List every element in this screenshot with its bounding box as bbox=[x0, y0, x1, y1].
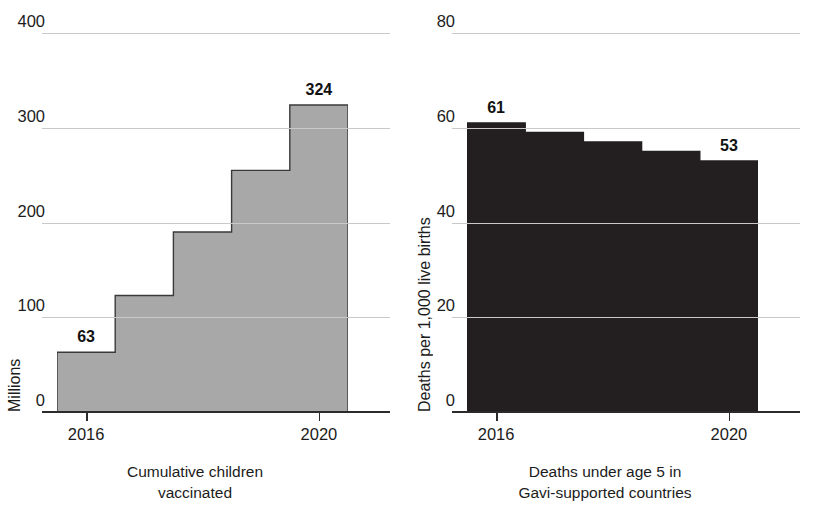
y-axis-title-left: Millions bbox=[6, 33, 24, 412]
x-axis-title-left-line2: vaccinated bbox=[42, 483, 348, 504]
series-step-area bbox=[57, 105, 348, 412]
y-tick-label: 0 bbox=[36, 392, 45, 409]
gridline bbox=[42, 128, 390, 129]
gridline bbox=[42, 223, 390, 224]
x-axis-title-right-line2: Gavi-supported countries bbox=[452, 483, 758, 504]
x-axis-title-left: Cumulative children vaccinated bbox=[42, 462, 348, 504]
x-tick-label: 2016 bbox=[68, 426, 105, 443]
gridline bbox=[452, 128, 800, 129]
y-tick-label: 300 bbox=[17, 107, 45, 124]
gridline bbox=[42, 33, 390, 34]
plot-area-right: 020406080201620206153 bbox=[467, 33, 758, 412]
x-tick bbox=[319, 412, 321, 421]
y-tick-label: 20 bbox=[437, 297, 455, 314]
x-axis-line bbox=[452, 411, 800, 413]
data-value-label: 53 bbox=[720, 138, 738, 154]
y-tick-label: 200 bbox=[17, 202, 45, 219]
x-tick-label: 2020 bbox=[301, 426, 338, 443]
data-value-label: 63 bbox=[77, 329, 95, 345]
y-tick-label: 100 bbox=[17, 297, 45, 314]
x-tick bbox=[496, 412, 498, 421]
plot-area-left: 01002003004002016202063324 bbox=[57, 33, 348, 412]
gridline bbox=[452, 33, 800, 34]
x-tick-label: 2020 bbox=[711, 426, 748, 443]
y-tick-label: 400 bbox=[17, 13, 45, 30]
y-tick-label: 40 bbox=[437, 202, 455, 219]
data-value-label: 61 bbox=[487, 100, 505, 116]
x-tick bbox=[86, 412, 88, 421]
y-axis-title-right: Deaths per 1,000 live births bbox=[416, 60, 434, 412]
gridline bbox=[42, 317, 390, 318]
y-tick-label: 0 bbox=[446, 392, 455, 409]
x-axis-line bbox=[42, 411, 390, 413]
data-value-label: 324 bbox=[306, 82, 333, 98]
chart-panel-vaccinated: Millions 01002003004002016202063324 Cumu… bbox=[0, 0, 410, 521]
chart-panel-deaths: Deaths per 1,000 live births 02040608020… bbox=[410, 0, 820, 521]
y-tick-label: 80 bbox=[437, 13, 455, 30]
x-tick-label: 2016 bbox=[478, 426, 515, 443]
x-axis-title-right: Deaths under age 5 in Gavi-supported cou… bbox=[452, 462, 758, 504]
x-axis-title-right-line1: Deaths under age 5 in bbox=[452, 462, 758, 483]
figure: Millions 01002003004002016202063324 Cumu… bbox=[0, 0, 820, 521]
series-step-area bbox=[467, 123, 758, 412]
x-axis-title-left-line1: Cumulative children bbox=[42, 462, 348, 483]
x-tick bbox=[729, 412, 731, 421]
y-tick-label: 60 bbox=[437, 107, 455, 124]
gridline bbox=[452, 223, 800, 224]
gridline bbox=[452, 317, 800, 318]
